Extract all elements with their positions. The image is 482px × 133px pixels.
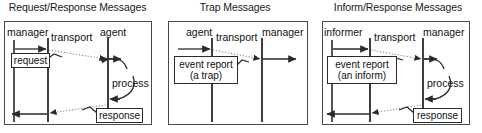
panel-inform-response: Inform/Response Messages <box>317 0 482 133</box>
lifeline-label-agent: agent <box>100 26 126 38</box>
annotation-process: process <box>427 77 464 89</box>
lifeline-label-manager: manager <box>423 26 464 38</box>
lifeline-label-transport: transport <box>51 31 92 43</box>
message-box-event-report-inform-line-1: event report <box>335 59 388 70</box>
panel-request-response: Request/Response Messages <box>0 0 155 133</box>
lifeline-label-manager: manager <box>262 26 303 38</box>
message-box-request-line-1: request <box>14 55 47 66</box>
lifeline-label-agent: agent <box>186 26 212 38</box>
curve-manager-process-in <box>424 59 444 69</box>
panel-trap: Trap Messages agent transport manager <box>160 0 310 133</box>
lifeline-label-transport: transport <box>216 31 257 43</box>
message-box-event-report-trap: event report (a trap) <box>174 56 238 84</box>
message-box-request: request <box>11 53 50 68</box>
lifeline-label-manager: manager <box>7 26 48 38</box>
annotation-process: process <box>112 77 149 89</box>
message-box-response: response <box>413 108 462 123</box>
message-box-event-report-trap-line-1: event report <box>179 59 232 70</box>
arrow-transport-to-agent-dotted <box>49 50 106 59</box>
message-box-response-line-1: response <box>417 110 458 121</box>
message-box-event-report-trap-line-2: (a trap) <box>190 70 222 81</box>
snmp-message-sequence-figure: Request/Response Messages <box>0 0 482 133</box>
message-box-response-line-1: response <box>99 110 140 121</box>
lifeline-label-informer: informer <box>324 26 363 38</box>
message-box-event-report-inform-line-2: (an inform) <box>338 70 386 81</box>
curve-agent-process-in <box>109 59 127 69</box>
lifeline-label-transport: transport <box>374 31 415 43</box>
message-box-event-report-inform: event report (an inform) <box>327 56 397 84</box>
leader-response-box <box>399 107 414 113</box>
message-box-response: response <box>96 108 143 123</box>
